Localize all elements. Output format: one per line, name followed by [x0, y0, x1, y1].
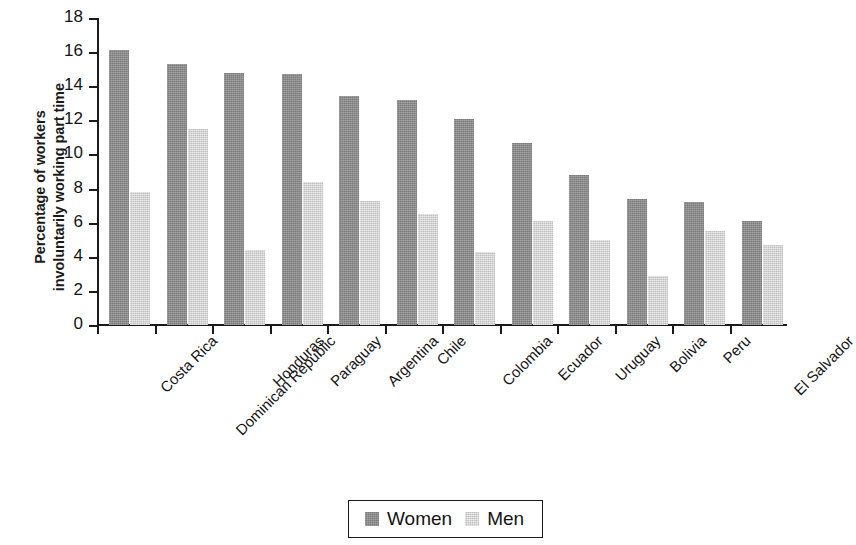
bar-women — [742, 221, 762, 325]
y-tick: 10 — [89, 154, 97, 156]
x-tick — [442, 325, 444, 334]
x-tick — [270, 325, 272, 334]
x-category-label: Uruguay — [612, 332, 664, 384]
y-tick: 18 — [89, 18, 97, 20]
y-tick-label: 10 — [64, 143, 83, 163]
bar-women — [282, 74, 302, 325]
bar-men — [245, 250, 265, 325]
y-tick-label: 12 — [64, 109, 83, 129]
bar-women — [512, 143, 532, 325]
y-tick-label: 0 — [74, 314, 83, 334]
x-category-label: Bolivia — [665, 332, 708, 375]
y-tick: 6 — [89, 223, 97, 225]
x-category-label: Costa Rica — [156, 332, 220, 396]
x-category-label: Chile — [433, 332, 469, 368]
bar-women — [684, 202, 704, 325]
x-tick — [615, 325, 617, 334]
y-tick: 0 — [89, 325, 97, 327]
bar-men — [188, 129, 208, 325]
x-tick — [97, 325, 99, 334]
bar-men — [418, 214, 438, 325]
x-tick — [385, 325, 387, 334]
bar-men — [303, 182, 323, 325]
x-tick — [500, 325, 502, 334]
bar-men — [533, 221, 553, 325]
y-tick-label: 16 — [64, 41, 83, 61]
y-axis-title: Percentage of workers involuntarily work… — [31, 17, 69, 357]
legend-label: Men — [487, 508, 524, 529]
y-tick: 2 — [89, 291, 97, 293]
legend-swatch-women — [365, 512, 379, 526]
bar-women — [167, 64, 187, 325]
x-tick — [155, 325, 157, 334]
y-tick-label: 4 — [74, 246, 83, 266]
x-tick — [672, 325, 674, 334]
y-tick-label: 14 — [64, 75, 83, 95]
x-tick — [557, 325, 559, 334]
y-tick-label: 18 — [64, 7, 83, 27]
legend-label: Women — [387, 508, 452, 529]
y-tick: 8 — [89, 189, 97, 191]
legend-swatch-men — [465, 512, 479, 526]
bar-women — [224, 73, 244, 325]
chart-legend: WomenMen — [348, 500, 543, 538]
plot-area: 181614121086420 — [97, 18, 787, 325]
y-tick-label: 6 — [74, 212, 83, 232]
x-category-label: Peru — [719, 332, 753, 366]
y-tick: 4 — [89, 257, 97, 259]
legend-entry: Men — [465, 508, 524, 529]
x-category-label: Ecuador — [554, 332, 606, 384]
bar-men — [705, 231, 725, 325]
legend-entry: Women — [365, 508, 452, 529]
bar-men — [130, 192, 150, 325]
bar-men — [360, 201, 380, 326]
x-category-label: Colombia — [499, 332, 556, 389]
bar-women — [109, 50, 129, 325]
y-tick: 12 — [89, 120, 97, 122]
bar-women — [339, 96, 359, 325]
bar-women — [397, 100, 417, 325]
y-tick-label: 2 — [74, 280, 83, 300]
x-tick — [730, 325, 732, 334]
y-tick: 16 — [89, 52, 97, 54]
y-tick-label: 8 — [74, 178, 83, 198]
x-category-label: El Salvador — [790, 332, 856, 398]
bar-women — [627, 199, 647, 325]
bar-men — [648, 276, 668, 325]
x-category-label: Argentina — [384, 332, 441, 389]
bar-women — [454, 119, 474, 325]
x-tick — [212, 325, 214, 334]
bar-women — [569, 175, 589, 325]
bar-men — [475, 252, 495, 325]
y-tick: 14 — [89, 86, 97, 88]
y-axis-line — [97, 18, 99, 326]
bar-men — [763, 245, 783, 325]
bar-men — [590, 240, 610, 325]
